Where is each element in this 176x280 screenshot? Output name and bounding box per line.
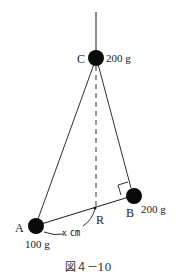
label-a: A [15,222,24,234]
mass-b: 200 g [141,204,166,215]
label-r: R [96,214,104,226]
distance-arc-r [83,209,95,226]
string-c-b [98,64,131,188]
ball-c [88,50,104,66]
string-c-a [38,64,94,219]
right-angle-marker [118,182,128,195]
figure-caption: 図４－10 [0,258,176,274]
pendulum-diagram: C 200 g B 200 g A 100 g R x ㎝ 図４－10 [0,0,176,280]
mass-c: 200 g [106,53,131,64]
ball-b [126,188,142,204]
distance-label: x ㎝ [62,228,80,238]
rod-a-b [38,196,132,225]
ball-a [28,218,44,234]
mass-a: 100 g [25,239,50,250]
label-c: C [77,53,85,65]
distance-arc [44,232,64,235]
label-b: B [126,207,134,219]
